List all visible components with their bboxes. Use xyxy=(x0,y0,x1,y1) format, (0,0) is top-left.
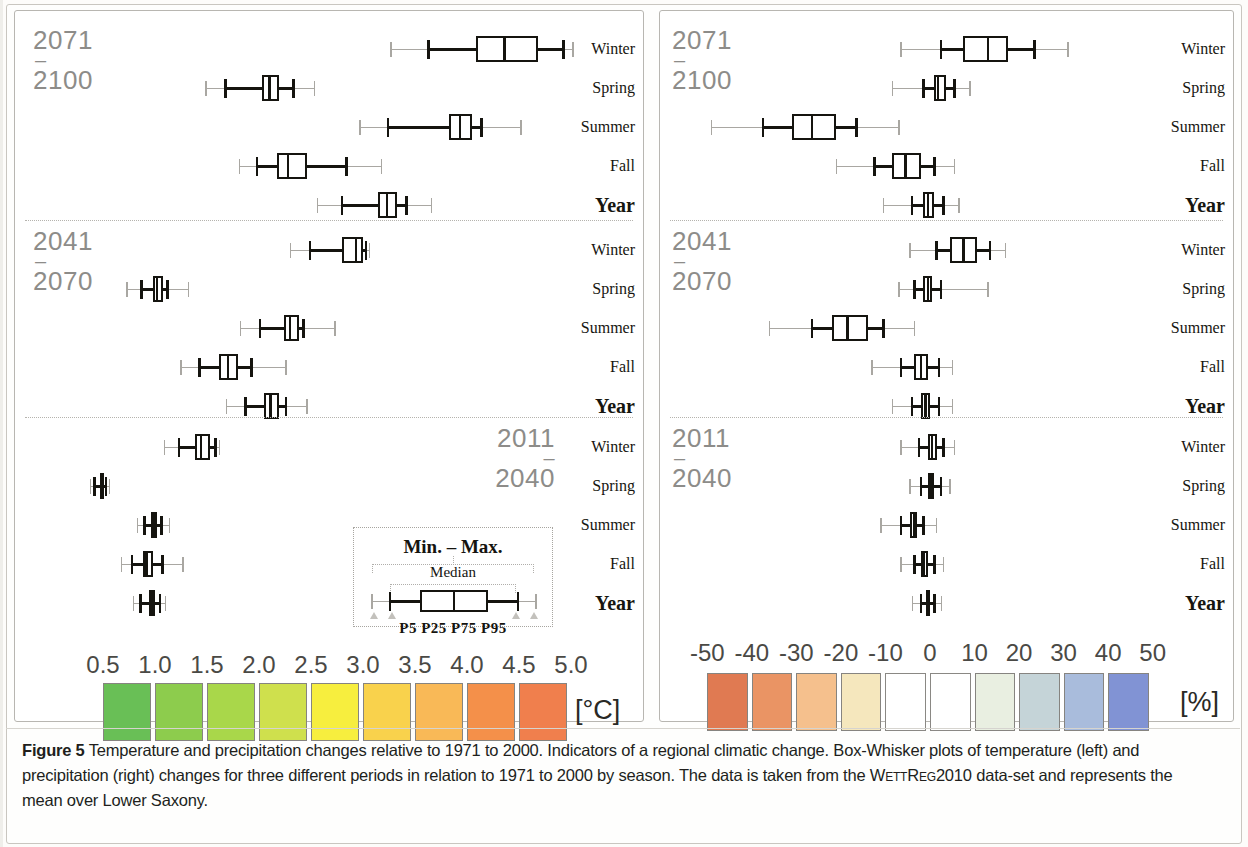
cap-p5 xyxy=(913,280,916,299)
median-line xyxy=(151,590,153,616)
cap-min xyxy=(317,198,318,213)
cap-p5 xyxy=(811,319,814,338)
cap-max xyxy=(219,440,220,455)
colorbar-swatch-8 xyxy=(1064,673,1105,731)
cap-p5 xyxy=(140,280,143,299)
cap-max xyxy=(306,399,307,414)
axis-tick-5: 0 xyxy=(923,639,936,667)
cap-min xyxy=(900,557,901,572)
cap-p95 xyxy=(940,477,943,496)
cap-p5 xyxy=(873,157,876,176)
cap-min xyxy=(769,321,770,336)
cap-p95 xyxy=(345,157,348,176)
cap-max xyxy=(572,42,573,57)
period-block-2: 2041–2070WinterSpringSummerFallYear xyxy=(15,226,643,421)
axis-tick-8: 4.5 xyxy=(502,651,535,679)
cap-min xyxy=(900,42,901,57)
cap-p5 xyxy=(935,241,938,260)
median-line xyxy=(101,473,103,499)
cap-min xyxy=(126,282,127,297)
cap-p95 xyxy=(933,594,936,613)
median-line xyxy=(927,192,929,218)
figure-label: Figure 5 xyxy=(22,741,85,759)
legend-marker-triangle-2 xyxy=(512,612,520,619)
cap-p5 xyxy=(139,594,142,613)
legend-cap-min xyxy=(371,594,372,609)
season-label-winter: Winter xyxy=(591,241,635,259)
cap-max xyxy=(169,518,170,533)
cap-p95 xyxy=(922,516,925,535)
axis-tick-9: 5.0 xyxy=(554,651,587,679)
colorbar-swatch-5 xyxy=(363,683,411,741)
median-line xyxy=(287,153,289,179)
axis-tick-10: 50 xyxy=(1139,639,1166,667)
period-block-2: 2041–2070WinterSpringSummerFallYear xyxy=(660,226,1233,421)
cap-max xyxy=(952,360,953,375)
legend-median-label: Median xyxy=(354,564,552,581)
colorbar-swatch-6 xyxy=(415,683,463,741)
cap-p95 xyxy=(285,397,288,416)
legend-median-stem xyxy=(453,556,454,563)
legend-marker-triangle-1 xyxy=(388,612,396,619)
cap-p95 xyxy=(405,196,408,215)
colorbar-swatch-8 xyxy=(519,683,567,741)
cap-min xyxy=(133,596,134,611)
median-line xyxy=(962,237,964,263)
cap-max xyxy=(987,282,988,297)
cap-p5 xyxy=(259,319,262,338)
cap-max xyxy=(369,243,370,258)
cap-p95 xyxy=(250,358,253,377)
cap-min xyxy=(892,399,893,414)
legend-cap-p5 xyxy=(389,592,392,611)
axis-tick-1: -40 xyxy=(734,639,769,667)
box-p25-p75 xyxy=(832,315,868,341)
cap-p5 xyxy=(920,594,923,613)
colorbar-unit-label: [%] xyxy=(1180,687,1219,718)
axis-tick-3: -20 xyxy=(824,639,859,667)
cap-p5 xyxy=(224,79,227,98)
cap-p95 xyxy=(1033,40,1036,59)
median-line xyxy=(811,114,813,140)
cap-p5 xyxy=(900,358,903,377)
cap-p5 xyxy=(900,516,903,535)
cap-p95 xyxy=(105,477,108,496)
cap-p5 xyxy=(762,118,765,137)
season-label-year: Year xyxy=(595,395,635,418)
cap-min xyxy=(871,360,872,375)
cap-p95 xyxy=(938,358,941,377)
median-line xyxy=(987,36,989,62)
cap-max xyxy=(381,159,382,174)
colorbar xyxy=(660,673,1233,731)
axis-tick-2: 1.5 xyxy=(190,651,223,679)
period-separator xyxy=(670,417,1223,418)
period-label-2041-2070: 2041–2070 xyxy=(672,228,732,294)
median-line xyxy=(289,315,291,341)
box-p25-p75 xyxy=(277,153,307,179)
cap-p5 xyxy=(427,40,430,59)
cap-min xyxy=(836,159,837,174)
cap-p95 xyxy=(882,319,885,338)
cap-p95 xyxy=(161,555,164,574)
cap-p5 xyxy=(198,358,201,377)
box-p25-p75 xyxy=(792,114,837,140)
figure-page: 2071–2100WinterSpringSummerFallYear2041–… xyxy=(0,0,1248,847)
colorbar-swatch-3 xyxy=(841,673,882,731)
cap-p5 xyxy=(244,397,247,416)
season-label-spring: Spring xyxy=(592,79,635,97)
figure-caption: Figure 5 Temperature and precipitation c… xyxy=(22,738,1212,813)
median-line xyxy=(927,276,929,302)
axis-tick-4: -10 xyxy=(868,639,903,667)
period-end: 2100 xyxy=(672,65,732,95)
cap-min xyxy=(205,81,206,96)
season-label-winter: Winter xyxy=(591,438,635,456)
colorbar-swatch-4 xyxy=(885,673,926,731)
cap-p95 xyxy=(933,157,936,176)
cap-p5 xyxy=(918,438,921,457)
cap-max xyxy=(109,479,110,494)
legend-box: Min. – Max.MedianP5 P25 P75 P95 xyxy=(353,527,553,627)
period-label-2071-2100: 2071–2100 xyxy=(672,27,732,93)
colorbar-swatch-2 xyxy=(796,673,837,731)
cap-max xyxy=(165,596,166,611)
period-dash: – xyxy=(497,453,555,463)
median-line xyxy=(927,590,929,616)
